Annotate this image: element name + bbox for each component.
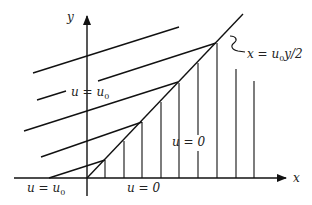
diagram-canvas: y x u = u0 u = u0 u = 0 u = 0 x = u0y/2 xyxy=(0,0,312,205)
y-axis-label: y xyxy=(66,10,74,24)
label-u-u0-lower: u = u0 xyxy=(27,181,65,197)
label-u-u0-upper: u = u0 xyxy=(71,85,109,101)
label-u-0-upper: u = 0 xyxy=(172,135,205,149)
label-shock-equation: x = u0y/2 xyxy=(247,47,303,63)
shock-pointer xyxy=(230,36,245,52)
x-axis-label: x xyxy=(293,171,300,185)
left-characteristics xyxy=(24,27,216,178)
label-u-0-lower: u = 0 xyxy=(127,181,160,195)
shock-line xyxy=(87,14,243,178)
right-characteristics xyxy=(105,43,254,178)
